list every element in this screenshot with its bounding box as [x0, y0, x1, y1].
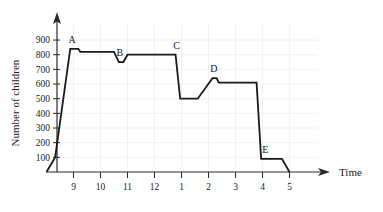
x-tick-label: 4 [260, 182, 265, 192]
y-tick-label: 400 [36, 109, 51, 119]
y-tick-label: 100 [36, 153, 51, 163]
line-chart: 100200300400500600700800900 910111212345… [0, 0, 383, 212]
y-axis-title: Number of children [9, 59, 21, 146]
y-tick-label: 900 [36, 35, 51, 45]
x-tick-label: 12 [150, 182, 160, 192]
data-line-series [47, 49, 290, 172]
x-tick-label: 1 [179, 182, 184, 192]
y-tick-label: 800 [36, 50, 51, 60]
x-tick-label: 3 [233, 182, 238, 192]
grid-lines [57, 22, 318, 172]
point-label-d: D [210, 63, 217, 74]
x-tick-label: 2 [206, 182, 211, 192]
point-label-b: B [117, 47, 124, 58]
y-tick-label: 700 [36, 65, 51, 75]
y-tick-label: 300 [36, 123, 51, 133]
chart-canvas: 100200300400500600700800900 910111212345… [0, 0, 383, 212]
x-axis-title: Time [339, 166, 362, 178]
y-tick-label: 500 [36, 94, 51, 104]
y-tick-label: 200 [36, 138, 51, 148]
x-axis-ticks: 910111212345 [71, 172, 292, 192]
point-label-a: A [69, 34, 77, 45]
x-tick-label: 11 [123, 182, 132, 192]
x-tick-label: 10 [96, 182, 106, 192]
point-label-c: C [173, 40, 180, 51]
y-tick-label: 600 [36, 79, 51, 89]
point-label-e: E [262, 144, 268, 155]
x-tick-label: 5 [287, 182, 292, 192]
x-tick-label: 9 [71, 182, 76, 192]
